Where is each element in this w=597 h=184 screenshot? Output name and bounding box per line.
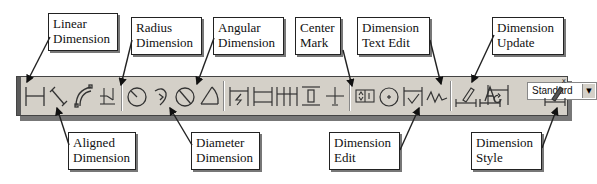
- ordinate-dimension-button[interactable]: [95, 82, 119, 110]
- dimension-break-icon: [323, 82, 347, 110]
- jogged-linear-icon: [425, 82, 449, 110]
- callout-text: Dimension: [73, 150, 131, 165]
- continue-dimension-icon: [275, 82, 299, 110]
- callout-angular-dimension: Angular Dimension: [213, 17, 284, 55]
- jogged-dimension-button[interactable]: [149, 82, 173, 110]
- radius-dimension-icon: [125, 82, 149, 110]
- callout-text: Diameter: [196, 135, 255, 150]
- callout-text: Linear: [53, 16, 113, 31]
- dimension-update-button-visual[interactable]: [486, 81, 510, 109]
- arc-length-button[interactable]: [71, 82, 95, 110]
- dimension-space-icon: [299, 82, 323, 110]
- callout-linear-dimension: Linear Dimension: [48, 13, 118, 51]
- callout-text: Dimension: [334, 135, 395, 150]
- callout-text: Mark: [300, 35, 336, 50]
- callout-text: Center: [300, 20, 336, 35]
- quick-dimension-button[interactable]: [227, 82, 251, 110]
- aligned-dimension-icon: [47, 82, 71, 110]
- callout-text: Text Edit: [362, 35, 425, 50]
- callout-dimension-edit: Dimension Edit: [329, 132, 400, 170]
- callout-text: Dimension: [476, 135, 537, 150]
- callout-diameter-dimension: Diameter Dimension: [191, 132, 260, 170]
- diameter-dimension-icon: [173, 82, 197, 110]
- toolbar-separator: [121, 81, 123, 111]
- ordinate-dimension-icon: [95, 82, 119, 110]
- callout-dimension-update: Dimension Update: [492, 17, 564, 55]
- callout-center-mark: Center Mark: [295, 17, 341, 55]
- dimension-style-button-visual[interactable]: [543, 81, 567, 109]
- callout-text: Aligned: [73, 135, 131, 150]
- dimension-space-button[interactable]: [299, 82, 323, 110]
- dimension-edit-button[interactable]: [454, 82, 478, 110]
- radius-dimension-button[interactable]: [125, 82, 149, 110]
- toolbar-separator: [450, 81, 452, 111]
- tolerance-icon: [353, 82, 377, 110]
- jogged-linear-button[interactable]: [425, 82, 449, 110]
- callout-text: Dimension: [53, 31, 113, 46]
- callout-radius-dimension: Radius Dimension: [131, 17, 202, 55]
- callout-text: Radius: [136, 20, 197, 35]
- baseline-dimension-button[interactable]: [251, 82, 275, 110]
- callout-text: Update: [497, 35, 559, 50]
- quick-dimension-icon: [227, 82, 251, 110]
- callout-text: Dimension: [196, 150, 255, 165]
- dimension-edit-icon: [454, 82, 478, 110]
- dimension-break-button[interactable]: [323, 82, 347, 110]
- dimension-update-icon: [486, 81, 510, 109]
- callout-text: Dimension: [218, 35, 279, 50]
- linear-dimension-icon: [23, 82, 47, 110]
- callout-text: Angular: [218, 20, 279, 35]
- inspection-icon: [401, 82, 425, 110]
- callout-text: Dimension: [497, 20, 559, 35]
- angular-dimension-icon: [197, 82, 221, 110]
- callout-text: Style: [476, 150, 537, 165]
- jogged-dimension-icon: [149, 82, 173, 110]
- inspection-button[interactable]: [401, 82, 425, 110]
- callout-aligned-dimension: Aligned Dimension: [68, 132, 136, 170]
- toolbar-separator: [223, 81, 225, 111]
- linear-dimension-button[interactable]: [23, 82, 47, 110]
- diameter-dimension-button[interactable]: [173, 82, 197, 110]
- callout-dimension-style: Dimension Style: [471, 132, 542, 170]
- tolerance-button[interactable]: [353, 82, 377, 110]
- arc-length-icon: [71, 82, 95, 110]
- aligned-dimension-button[interactable]: [47, 82, 71, 110]
- center-mark-button[interactable]: [377, 82, 401, 110]
- angular-dimension-button[interactable]: [197, 82, 221, 110]
- center-mark-icon: [377, 82, 401, 110]
- baseline-dimension-icon: [251, 82, 275, 110]
- callout-dimension-text-edit: Dimension Text Edit: [357, 17, 430, 55]
- callout-text: Dimension: [136, 35, 197, 50]
- toolbar-grip-handle[interactable]: [17, 77, 21, 115]
- dimension-style-icon: [543, 81, 567, 109]
- chevron-down-icon[interactable]: ▼: [582, 84, 595, 98]
- continue-dimension-button[interactable]: [275, 82, 299, 110]
- callout-text: Edit: [334, 150, 395, 165]
- callout-text: Dimension: [362, 20, 425, 35]
- toolbar-separator: [349, 81, 351, 111]
